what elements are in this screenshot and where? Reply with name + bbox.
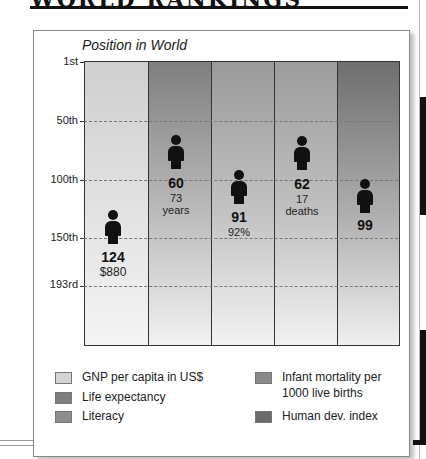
legend-swatch-life-expectancy — [55, 392, 72, 404]
legend-label-literacy: Literacy — [82, 409, 124, 424]
detail-gnp: $880 — [83, 266, 143, 278]
page-side-block — [420, 330, 426, 445]
detail-infant-mortality-1: 17 — [272, 193, 332, 205]
y-tick-193rd: 193rd — [40, 278, 78, 290]
column-gnp — [85, 62, 148, 345]
rank-value-hdi: 99 — [335, 217, 395, 233]
page-side-block — [420, 97, 426, 215]
legend-label-gnp: GNP per capita in US$ — [82, 370, 203, 385]
rank-value-infant-mortality: 62 — [272, 176, 332, 192]
legend-label-life-expectancy: Life expectancy — [82, 390, 165, 405]
page-left-line — [0, 445, 34, 446]
person-icon — [355, 179, 375, 213]
y-tick-50th: 50th — [40, 114, 78, 126]
grid-line — [84, 238, 398, 239]
page-side-foot — [413, 440, 426, 445]
rank-value-life-expectancy: 60 — [146, 175, 206, 191]
rank-value-literacy: 91 — [209, 209, 269, 225]
legend-label-hdi: Human dev. index — [282, 409, 378, 424]
grid-line — [84, 286, 398, 287]
legend-label-infant-mortality-1: Infant mortality per — [282, 370, 381, 385]
person-icon — [103, 210, 123, 244]
legend-swatch-gnp — [55, 372, 72, 384]
detail-literacy: 92% — [209, 226, 269, 238]
legend-swatch-literacy — [55, 411, 72, 423]
chart-title: Position in World — [82, 37, 187, 53]
detail-life-expectancy-2: years — [146, 204, 206, 216]
detail-life-expectancy-1: 73 — [146, 192, 206, 204]
y-tick-mark — [80, 62, 84, 63]
title-rule — [30, 6, 408, 9]
y-tick-100th: 100th — [40, 173, 78, 185]
y-tick-1st: 1st — [40, 55, 78, 67]
legend-swatch-infant-mortality — [255, 372, 272, 384]
rank-value-gnp: 124 — [83, 249, 143, 265]
grid-line — [84, 121, 398, 122]
legend-swatch-hdi — [255, 411, 272, 423]
person-icon — [292, 136, 312, 170]
y-tick-150th: 150th — [40, 231, 78, 243]
page-left-line — [0, 440, 34, 441]
detail-infant-mortality-2: deaths — [272, 205, 332, 217]
person-icon — [229, 170, 249, 204]
person-icon — [166, 135, 186, 169]
legend-label-infant-mortality-2: 1000 live births — [282, 386, 363, 401]
